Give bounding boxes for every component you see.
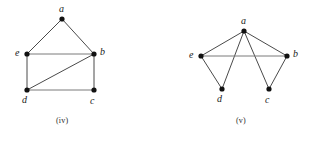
vertex-a xyxy=(241,28,246,33)
vertex-label-c: c xyxy=(90,96,94,106)
edge-a-e xyxy=(201,31,244,56)
vertex-label-c: c xyxy=(265,95,269,105)
vertex-label-d: d xyxy=(22,95,27,105)
vertex-c xyxy=(91,87,96,92)
edge-e-d xyxy=(201,56,222,89)
vertex-label-b: b xyxy=(293,49,298,59)
vertex-e xyxy=(24,51,29,56)
vertex-d xyxy=(24,87,29,92)
vertex-label-e: e xyxy=(189,50,193,60)
vertex-label-e: e xyxy=(15,48,19,58)
vertex-b xyxy=(284,53,289,58)
vertex-label-b: b xyxy=(100,47,105,57)
vertex-c xyxy=(266,86,271,91)
edge-a-c xyxy=(244,31,269,89)
vertex-e xyxy=(198,53,203,58)
graph-canvas xyxy=(0,0,158,141)
figure-caption: (iv) xyxy=(56,116,68,125)
vertex-label-a: a xyxy=(59,4,64,14)
edge-a-b xyxy=(244,31,287,56)
graph-figure-iv: aebdc(iv) xyxy=(0,0,158,141)
vertex-a xyxy=(59,16,64,21)
vertex-b xyxy=(91,51,96,56)
edge-a-d xyxy=(222,31,244,89)
vertex-label-a: a xyxy=(241,16,246,26)
edge-a-e xyxy=(27,19,62,54)
edge-b-c xyxy=(269,56,287,89)
edge-a-b xyxy=(62,19,94,54)
edge-d-b xyxy=(27,54,94,90)
figure-caption: (v) xyxy=(236,116,246,125)
vertex-label-d: d xyxy=(217,94,222,104)
graph-figure-v: aebdc(v) xyxy=(158,0,317,141)
vertex-d xyxy=(219,86,224,91)
figure-root: aebdc(iv)aebdc(v) xyxy=(0,0,317,141)
